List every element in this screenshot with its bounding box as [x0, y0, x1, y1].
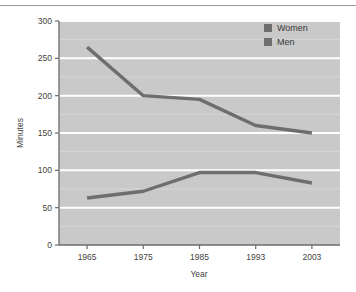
x-axis-tick-label: 1985 — [190, 252, 209, 262]
legend-label-men: Men — [277, 37, 295, 47]
y-axis-title: Minutes — [15, 118, 25, 148]
y-axis-tick-label: 200 — [38, 91, 52, 101]
x-axis-title: Year — [190, 269, 207, 279]
legend-swatch-men — [264, 38, 272, 46]
x-axis-tick-label: 1965 — [78, 252, 97, 262]
y-axis-tick-label: 100 — [38, 165, 52, 175]
x-axis-tick-label: 1993 — [246, 252, 265, 262]
x-axis-tick-label: 2003 — [302, 252, 321, 262]
y-axis-tick-label: 250 — [38, 53, 52, 63]
x-axis-tick-label: 1975 — [134, 252, 153, 262]
x-axis-ticks: 19651975198519932003 — [78, 245, 322, 262]
legend-label-women: Women — [277, 23, 308, 33]
y-axis-tick-label: 150 — [38, 128, 52, 138]
line-chart: 050100150200250300 19651975198519932003 … — [0, 0, 356, 292]
chart-figure: 050100150200250300 19651975198519932003 … — [0, 0, 356, 292]
y-axis-tick-label: 300 — [38, 16, 52, 26]
legend-swatch-women — [264, 24, 272, 32]
y-axis-tick-label: 0 — [47, 240, 52, 250]
y-axis-tick-label: 50 — [43, 203, 53, 213]
y-axis-ticks: 050100150200250300 — [38, 16, 59, 250]
